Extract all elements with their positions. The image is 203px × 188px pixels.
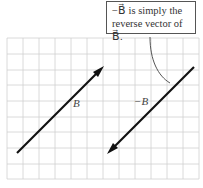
vector-neg-b bbox=[111, 67, 194, 150]
callout-line-1: −B⃗ is simply the bbox=[112, 4, 195, 17]
callout-line-2: reverse vector of B⃗. bbox=[112, 17, 195, 43]
label-neg-b: −B⃗ bbox=[134, 95, 157, 107]
label-b: B⃗ bbox=[73, 97, 88, 109]
vector-b bbox=[17, 70, 100, 153]
grid bbox=[7, 38, 199, 179]
callout-box: −B⃗ is simply the reverse vector of B⃗. bbox=[106, 1, 196, 34]
